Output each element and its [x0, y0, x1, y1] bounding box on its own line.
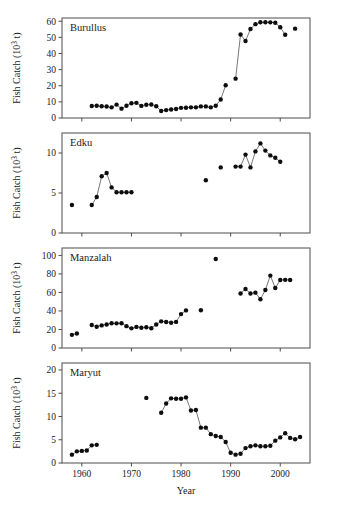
data-point	[169, 107, 173, 111]
x-tick-label: 1960	[72, 469, 91, 479]
panel-frame	[62, 248, 310, 348]
data-point	[258, 444, 262, 448]
data-point	[233, 452, 237, 456]
data-point	[258, 297, 262, 301]
panel-maryut: 0510152019601970198019902000MaryutFish C…	[10, 363, 310, 479]
data-point	[99, 104, 103, 108]
data-point	[278, 25, 282, 29]
data-point	[209, 105, 213, 109]
data-point	[273, 438, 277, 442]
data-point	[298, 435, 302, 439]
y-tick-label: 30	[47, 65, 57, 75]
data-point	[214, 434, 218, 438]
data-point	[90, 203, 94, 207]
data-point	[184, 308, 188, 312]
data-point	[70, 203, 74, 207]
y-tick-label: 60	[47, 17, 57, 27]
x-tick-label: 2000	[271, 469, 290, 479]
data-point	[99, 323, 103, 327]
data-point	[204, 104, 208, 108]
data-point	[204, 178, 208, 182]
data-point	[129, 101, 133, 105]
panel-manzalah: 020406080100ManzalahFish Catch (103 t)	[10, 248, 310, 353]
data-point	[293, 437, 297, 441]
data-point	[268, 273, 272, 277]
data-point	[80, 449, 84, 453]
data-point	[263, 148, 267, 152]
data-point	[70, 333, 74, 337]
y-tick-label: 20	[47, 365, 57, 375]
multi-panel-scatter-chart: 0102030405060BurullusFish Catch (103 t)0…	[0, 0, 340, 513]
data-point	[268, 153, 272, 157]
panel-frame	[62, 18, 310, 118]
data-point	[283, 431, 287, 435]
data-point	[154, 322, 158, 326]
data-point	[119, 190, 123, 194]
data-point	[253, 290, 257, 294]
panel-title: Manzalah	[70, 252, 112, 263]
y-axis-title: Fish Catch (103 t)	[10, 262, 23, 333]
data-point	[134, 101, 138, 105]
data-point	[104, 322, 108, 326]
data-point	[95, 104, 99, 108]
data-point	[139, 104, 143, 108]
data-point	[273, 156, 277, 160]
data-point	[114, 190, 118, 194]
data-point	[243, 287, 247, 291]
data-point	[70, 452, 74, 456]
data-point	[214, 104, 218, 108]
data-point	[243, 446, 247, 450]
data-point	[209, 432, 213, 436]
data-point	[189, 105, 193, 109]
y-tick-label: 10	[47, 97, 57, 107]
x-tick-label: 1990	[221, 469, 240, 479]
data-point	[95, 443, 99, 447]
y-tick-label: 5	[51, 188, 56, 198]
data-point	[273, 286, 277, 290]
data-point	[204, 425, 208, 429]
series-segment	[236, 143, 281, 167]
x-tick-label: 1980	[172, 469, 191, 479]
data-point	[114, 102, 118, 106]
data-point	[144, 396, 148, 400]
data-point	[184, 395, 188, 399]
data-point	[90, 443, 94, 447]
data-point	[149, 326, 153, 330]
data-point	[164, 320, 168, 324]
data-point	[129, 190, 133, 194]
data-point	[248, 165, 252, 169]
data-point	[258, 141, 262, 145]
data-point	[293, 26, 297, 30]
data-point	[144, 325, 148, 329]
data-point	[159, 411, 163, 415]
data-point	[194, 408, 198, 412]
data-point	[139, 326, 143, 330]
data-point	[169, 321, 173, 325]
y-tick-label: 0	[51, 113, 56, 123]
data-point	[174, 107, 178, 111]
data-point	[189, 408, 193, 412]
data-point	[95, 195, 99, 199]
data-point	[134, 325, 138, 329]
data-point	[109, 321, 113, 325]
data-point	[99, 174, 103, 178]
data-point	[75, 449, 79, 453]
data-point	[109, 105, 113, 109]
y-tick-label: 15	[47, 389, 57, 399]
y-axis-title: Fish Catch (103 t)	[10, 377, 23, 448]
panel-title: Edku	[70, 137, 93, 148]
panel-burullus: 0102030405060BurullusFish Catch (103 t)	[10, 17, 310, 124]
data-point	[179, 397, 183, 401]
data-point	[119, 106, 123, 110]
data-point	[238, 452, 242, 456]
data-point	[119, 321, 123, 325]
data-point	[223, 83, 227, 87]
data-point	[179, 106, 183, 110]
series-segment	[236, 22, 286, 78]
data-point	[288, 278, 292, 282]
y-tick-label: 10	[47, 148, 57, 158]
y-tick-label: 60	[47, 288, 57, 298]
data-point	[174, 397, 178, 401]
data-point	[199, 104, 203, 108]
data-point	[104, 171, 108, 175]
